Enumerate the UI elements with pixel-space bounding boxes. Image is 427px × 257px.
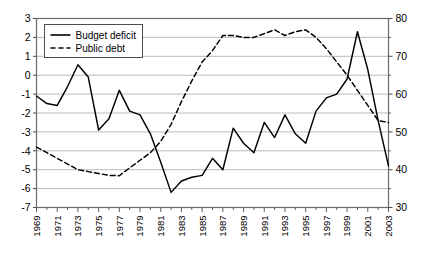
legend-label: Budget deficit — [76, 30, 137, 41]
x-axis-tick-label: 1999 — [341, 216, 352, 237]
right-axis-tick-label: 70 — [396, 50, 408, 62]
left-axis-labels: 3210-1-2-3-4-5-6-7 — [21, 12, 31, 213]
x-axis-tick-label: 1983 — [176, 216, 187, 237]
left-axis-tick-label: -2 — [21, 107, 30, 119]
x-axis-ticks — [37, 208, 389, 213]
right-axis-tick-label: 60 — [396, 88, 408, 100]
x-axis-tick-label: 1979 — [134, 216, 145, 237]
left-axis-tick-label: -3 — [21, 126, 30, 138]
left-axis-tick-label: 1 — [25, 50, 31, 62]
chart-container: 3210-1-2-3-4-5-6-7 807060504030 19691971… — [0, 0, 427, 257]
x-axis-tick-label: 1995 — [300, 216, 311, 237]
x-axis-tick-label: 1975 — [93, 216, 104, 237]
x-axis-tick-label: 1971 — [52, 216, 63, 237]
x-axis-tick-label: 1977 — [114, 216, 125, 237]
left-axis-tick-label: -7 — [21, 201, 30, 213]
x-axis-tick-label: 1991 — [259, 216, 270, 237]
left-axis-tick-label: 2 — [25, 31, 31, 43]
right-axis-tick-label: 80 — [396, 12, 408, 24]
x-axis-tick-label: 1985 — [197, 216, 208, 237]
right-axis-tick-label: 50 — [396, 126, 408, 138]
left-axis-tick-label: -4 — [21, 145, 30, 157]
x-axis-tick-label: 2003 — [383, 216, 394, 237]
left-axis-tick-label: 0 — [25, 69, 31, 81]
legend-label: Public debt — [76, 43, 126, 54]
x-axis-tick-label: 1993 — [279, 216, 290, 237]
right-axis-tick-label: 40 — [396, 163, 408, 175]
right-axis-tick-label: 30 — [396, 201, 408, 213]
left-axis-tick-label: -6 — [21, 182, 30, 194]
x-axis-tick-label: 1989 — [238, 216, 249, 237]
x-axis-tick-label: 1973 — [72, 216, 83, 237]
line-chart: 3210-1-2-3-4-5-6-7 807060504030 19691971… — [0, 0, 427, 257]
x-axis-tick-label: 1987 — [217, 216, 228, 237]
x-axis-tick-label: 1997 — [321, 216, 332, 237]
x-axis-tick-label: 2001 — [362, 216, 373, 237]
legend-box: Budget deficitPublic debt — [45, 25, 143, 58]
x-axis-labels: 1969197119731975197719791981198319851987… — [31, 216, 394, 237]
x-axis-tick-label: 1981 — [155, 216, 166, 237]
left-axis-tick-label: -1 — [21, 88, 30, 100]
x-axis-tick-label: 1969 — [31, 216, 42, 237]
right-axis-labels: 807060504030 — [396, 12, 408, 213]
left-axis-tick-label: 3 — [25, 12, 31, 24]
left-axis-tick-label: -5 — [21, 163, 30, 175]
